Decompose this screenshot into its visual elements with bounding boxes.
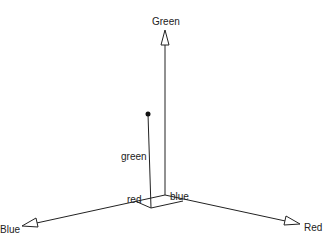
red-axis-arrowhead — [284, 216, 300, 225]
green-axis-arrowhead — [161, 30, 169, 45]
rgb-color-space-diagram: Green Red Blue green red blue — [0, 0, 332, 244]
blue-axis-arrowhead — [22, 218, 38, 227]
blue-axis — [32, 195, 165, 224]
blue-component-label: blue — [170, 191, 189, 202]
green-component-label: green — [121, 151, 147, 162]
component-parallelogram — [135, 201, 183, 208]
blue-axis-label: Blue — [0, 224, 20, 235]
color-point — [146, 112, 151, 117]
red-axis-label: Red — [304, 222, 322, 233]
green-axis-label: Green — [152, 16, 180, 27]
red-component-label: red — [127, 194, 141, 205]
green-component-line — [148, 114, 151, 208]
